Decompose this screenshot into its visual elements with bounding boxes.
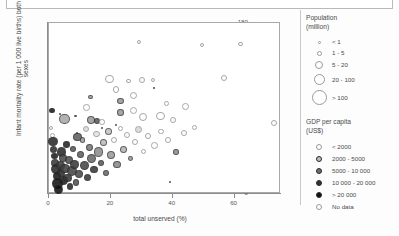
data-point-bubble xyxy=(137,40,141,44)
gdp-legend-label: No data xyxy=(332,204,354,210)
gdp-legend-circle-icon xyxy=(306,192,332,198)
population-legend-title: Population (million) xyxy=(306,14,398,32)
data-point-bubble xyxy=(103,170,110,177)
data-point-bubble xyxy=(117,98,124,105)
population-legend-label: > 100 xyxy=(332,95,348,101)
data-point-bubble xyxy=(139,77,145,83)
data-point-bubble xyxy=(86,144,93,151)
data-point-bubble xyxy=(113,86,120,93)
scatter-chart: 020406080100120140160180 0204060 Infant … xyxy=(0,10,300,236)
population-legend-label: < 1 xyxy=(332,39,341,45)
population-legend-title-line2: (million) xyxy=(306,23,398,32)
population-legend-item: < 1 xyxy=(306,37,398,48)
data-point-bubble xyxy=(93,131,99,137)
data-point-bubble xyxy=(107,151,115,159)
data-point-bubble xyxy=(128,156,133,161)
plot-area xyxy=(48,22,280,193)
gdp-legend-label: 2000 - 5000 xyxy=(332,156,365,162)
gdp-legend-item: 10 000 - 20 000 xyxy=(306,177,398,189)
population-legend-item: 5 - 20 xyxy=(306,59,398,72)
data-point-bubble xyxy=(100,139,107,146)
data-point-bubble xyxy=(80,137,86,143)
data-point-bubble xyxy=(156,112,165,121)
x-tick-label: 60 xyxy=(221,200,247,206)
data-point-bubble xyxy=(115,124,117,126)
data-point-bubble xyxy=(98,160,104,166)
data-point-bubble xyxy=(73,179,79,185)
data-point-bubble xyxy=(221,75,227,81)
data-point-bubble xyxy=(63,141,70,148)
data-point-bubble xyxy=(200,43,204,47)
gdp-legend-item: > 20 000 xyxy=(306,189,398,201)
data-point-bubble xyxy=(130,92,137,99)
top-cropped-strip xyxy=(6,0,393,9)
gdp-legend-label: < 2000 xyxy=(332,144,351,150)
data-point-bubble xyxy=(99,119,105,125)
data-point-bubble xyxy=(124,132,130,138)
population-legend-title-line1: Population xyxy=(306,14,398,23)
chart-page: 020406080100120140160180 0204060 Infant … xyxy=(0,0,399,236)
data-point-bubble xyxy=(130,107,137,114)
population-legend-item: 20 - 100 xyxy=(306,72,398,88)
x-tick-mark xyxy=(110,193,111,198)
gdp-legend-item: 2000 - 5000 xyxy=(306,153,398,165)
gdp-legend-title-line1: GDP per capita xyxy=(306,118,398,127)
data-point-bubble xyxy=(182,103,189,110)
data-point-bubble xyxy=(151,78,155,82)
data-point-bubble xyxy=(141,149,146,154)
data-point-bubble xyxy=(132,139,138,145)
data-point-bubble xyxy=(77,151,84,158)
data-point-bubble xyxy=(48,137,57,146)
data-point-bubble xyxy=(165,137,171,143)
population-legend-circle-icon xyxy=(306,51,332,56)
gdp-legend-label: 10 000 - 20 000 xyxy=(332,180,375,186)
population-legend-circle-icon xyxy=(306,74,332,85)
data-point-bubble xyxy=(74,115,77,118)
data-point-bubble xyxy=(84,174,91,181)
population-legend-rows: < 11 - 55 - 2020 - 100> 100 xyxy=(306,37,398,108)
x-tick-label: 0 xyxy=(35,200,61,206)
population-legend-circle-icon xyxy=(306,90,332,105)
data-point-bubble xyxy=(169,181,171,183)
population-legend-circle-icon xyxy=(306,41,332,44)
data-point-bubble xyxy=(181,130,187,136)
x-axis-label: total unserved (%) xyxy=(60,215,260,222)
data-point-bubble xyxy=(94,147,104,157)
data-point-bubble xyxy=(59,114,70,125)
data-point-bubble xyxy=(75,170,83,178)
gdp-legend-circle-icon xyxy=(306,204,332,210)
population-legend-circle-icon xyxy=(306,61,332,69)
data-point-bubble xyxy=(105,75,114,84)
data-point-bubble xyxy=(70,146,76,152)
data-point-bubble xyxy=(170,117,176,123)
gdp-legend-item: No data xyxy=(306,201,398,213)
gdp-legend-circle-icon xyxy=(306,168,332,174)
gdp-legend-item: 5000 - 10 000 xyxy=(306,165,398,177)
population-legend-item: 1 - 5 xyxy=(306,48,398,59)
data-point-bubble xyxy=(90,166,98,174)
data-point-bubble xyxy=(80,161,89,170)
y-axis-label: Infant mortality rate (per 1 000 live bi… xyxy=(16,0,29,144)
data-point-bubble xyxy=(173,149,179,155)
gdp-legend-item: < 2000 xyxy=(306,141,398,153)
data-point-bubble xyxy=(111,137,117,143)
gdp-legend-circle-icon xyxy=(306,180,332,186)
x-tick-mark xyxy=(48,193,49,198)
x-tick-mark xyxy=(234,193,235,198)
population-legend-item: > 100 xyxy=(306,88,398,108)
data-point-bubble xyxy=(113,161,121,169)
data-point-bubble xyxy=(105,128,112,135)
data-point-bubble xyxy=(139,113,147,121)
data-point-bubble xyxy=(238,42,243,47)
data-point-bubble xyxy=(158,129,164,135)
data-point-bubble xyxy=(192,125,197,130)
data-point-bubble xyxy=(120,146,127,153)
gdp-legend-label: > 20 000 xyxy=(332,192,356,198)
data-point-bubble xyxy=(151,142,158,149)
gdp-legend-circle-icon xyxy=(306,144,332,150)
data-point-bubble xyxy=(135,126,142,133)
data-point-bubble xyxy=(83,126,89,132)
data-point-bubble xyxy=(271,120,277,126)
data-point-bubble xyxy=(118,126,123,131)
population-size-legend: Population (million) < 11 - 55 - 2020 - … xyxy=(306,14,398,108)
